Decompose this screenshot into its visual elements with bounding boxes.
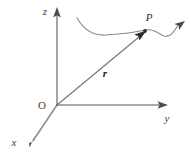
y-axis-label: y <box>164 112 170 124</box>
x-axis <box>29 105 57 148</box>
origin-marker <box>56 104 58 106</box>
z-axis <box>53 7 61 105</box>
position-vector-figure: z y x O P r <box>0 0 191 157</box>
point-p-label: P <box>145 11 153 23</box>
position-vector-line <box>57 37 139 105</box>
particle-path-curve <box>77 18 185 36</box>
particle-path-line <box>77 18 178 36</box>
z-axis-label: z <box>42 5 48 17</box>
y-axis <box>57 101 168 109</box>
coordinate-diagram-canvas: z y x O P r <box>0 0 191 157</box>
x-axis-label: x <box>11 136 17 148</box>
point-p-marker <box>143 29 147 33</box>
origin-label: O <box>38 99 46 111</box>
position-vector <box>57 31 147 106</box>
vector-r-label: r <box>103 67 108 79</box>
